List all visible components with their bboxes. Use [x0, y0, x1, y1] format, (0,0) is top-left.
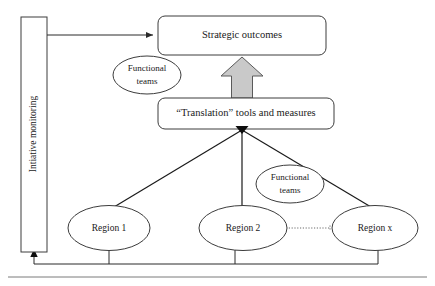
node-functional-teams-lower[interactable]: Functional teams [256, 165, 324, 203]
diagram-canvas: Intiative monitoring Strategic outcomes … [0, 0, 435, 286]
regions-feedback-connector [30, 249, 378, 264]
region2-to-regionx-connector [286, 226, 330, 231]
functional-teams-top-line1: Functional [128, 63, 167, 73]
translation-tools-label: “Translation” tools and measures [176, 107, 315, 118]
node-region-2[interactable]: Region 2 [199, 206, 287, 251]
monitoring-label: Intiative monitoring [28, 96, 38, 173]
region-x-label: Region x [358, 223, 393, 233]
regions-to-translation-connectors [114, 126, 371, 207]
region-1-label: Region 1 [92, 223, 127, 233]
functional-teams-lower-line1: Functional [271, 172, 310, 182]
node-translation-tools[interactable]: “Translation” tools and measures [158, 98, 334, 129]
block-arrow-up-icon [221, 57, 263, 98]
node-monitoring[interactable]: Intiative monitoring [21, 17, 47, 252]
node-strategic-outcomes[interactable]: Strategic outcomes [158, 16, 326, 55]
node-functional-teams-top[interactable]: Functional teams [113, 56, 181, 94]
diagram-svg: Intiative monitoring Strategic outcomes … [0, 0, 435, 286]
functional-teams-lower-line2: teams [280, 185, 301, 195]
functional-teams-top-line2: teams [137, 76, 158, 86]
node-region-1[interactable]: Region 1 [68, 206, 150, 251]
strategic-outcomes-label: Strategic outcomes [202, 29, 282, 40]
node-region-x[interactable]: Region x [332, 206, 418, 251]
region-2-label: Region 2 [226, 223, 261, 233]
